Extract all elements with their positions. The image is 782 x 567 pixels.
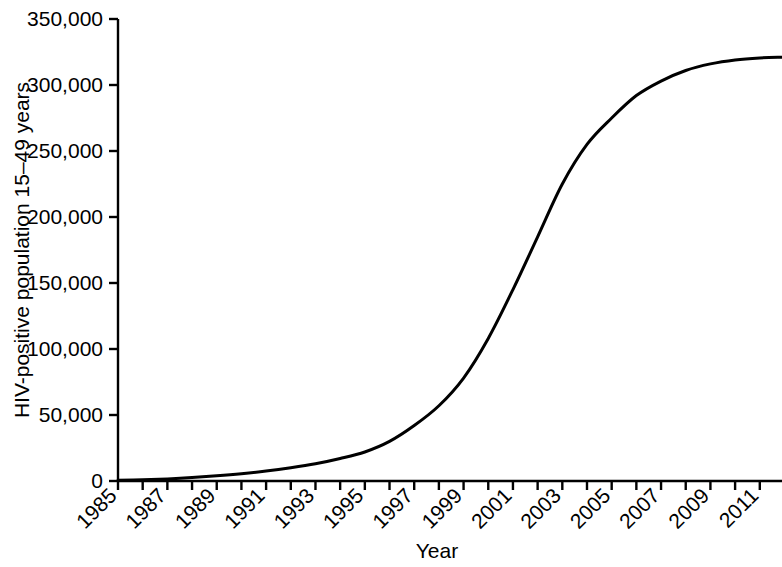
y-axis-title: HIV-positive population 15–49 years [10, 82, 33, 418]
y-axis-tick-label: 300,000 [27, 73, 103, 96]
x-axis-title: Year [416, 539, 458, 562]
y-axis-tick-label: 250,000 [27, 139, 103, 162]
hiv-population-line-chart: 050,000100,000150,000200,000250,000300,0… [0, 0, 782, 567]
y-axis-tick-label: 350,000 [27, 7, 103, 30]
chart-canvas: 050,000100,000150,000200,000250,000300,0… [0, 0, 782, 567]
y-axis-tick-label: 200,000 [27, 205, 103, 228]
y-axis-tick-label: 100,000 [27, 337, 103, 360]
y-axis-tick-label: 50,000 [39, 403, 103, 426]
y-axis-tick-label: 150,000 [27, 271, 103, 294]
